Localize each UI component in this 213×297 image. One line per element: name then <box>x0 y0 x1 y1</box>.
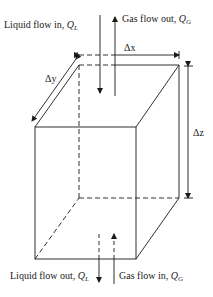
cube-edge-bottom-right-depth <box>136 198 179 259</box>
dz-label: Δz <box>193 128 204 138</box>
cube-edge-top-right-depth <box>136 65 179 127</box>
gas-in-label: Gas flow in, QG <box>119 271 183 283</box>
dy-dimension <box>32 59 76 121</box>
gas-out-label: Gas flow out, QG <box>122 14 191 26</box>
dx-label: Δx <box>124 43 135 53</box>
cube-edge-top-left-depth <box>35 65 79 127</box>
cube-hidden-bottom-left-depth <box>35 198 79 259</box>
liquid-in-label: Liquid flow in, QL <box>4 20 78 32</box>
cube-front-face <box>35 127 136 259</box>
dy-label: Δy <box>45 74 56 84</box>
liquid-out-label: Liquid flow out, QL <box>10 271 89 283</box>
control-volume-diagram <box>0 0 213 297</box>
